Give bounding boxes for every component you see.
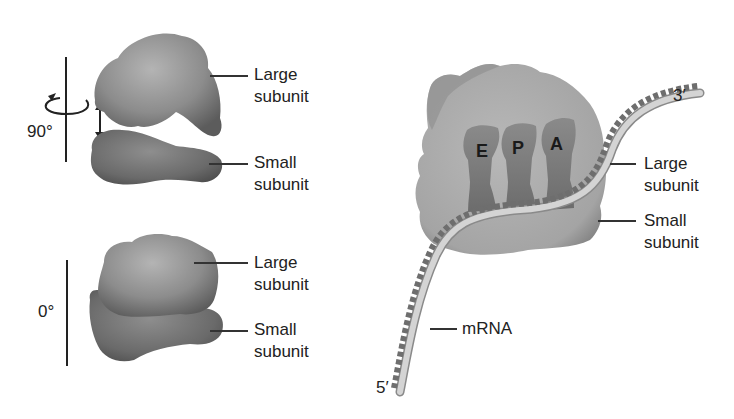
small-subunit-label-top-l2: subunit [254,175,309,195]
rotation-label-0: 0° [38,302,54,322]
large-subunit-front-view [98,234,218,317]
large-subunit-top-view [95,33,222,136]
ribosome-illustration: E P A [0,0,734,419]
rotation-axis-top [46,57,89,162]
five-prime-label: 5′ [376,378,389,398]
large-subunit-label-bottom-l2: subunit [254,275,309,295]
svg-text:P: P [512,138,524,158]
large-subunit-label-bottom-l1: Large [254,253,297,273]
three-prime-label: 3′ [673,86,686,106]
small-subunit-label-top-l1: Small [254,153,297,173]
small-subunit-label-bottom-l1: Small [254,320,297,340]
small-subunit-label-right-l1: Small [644,211,687,231]
svg-text:A: A [550,134,563,154]
large-subunit-label-top-l2: subunit [254,87,309,107]
small-subunit-top-view [91,130,222,185]
large-subunit-label-top-l1: Large [254,65,297,85]
small-subunit-label-right-l2: subunit [644,233,699,253]
svg-text:E: E [476,141,488,161]
mrna-label: mRNA [462,319,512,339]
large-subunit-label-right-l1: Large [644,154,687,174]
small-subunit-label-bottom-l2: subunit [254,342,309,362]
large-subunit-label-right-l2: subunit [644,176,699,196]
rotation-label-90: 90° [27,122,53,142]
